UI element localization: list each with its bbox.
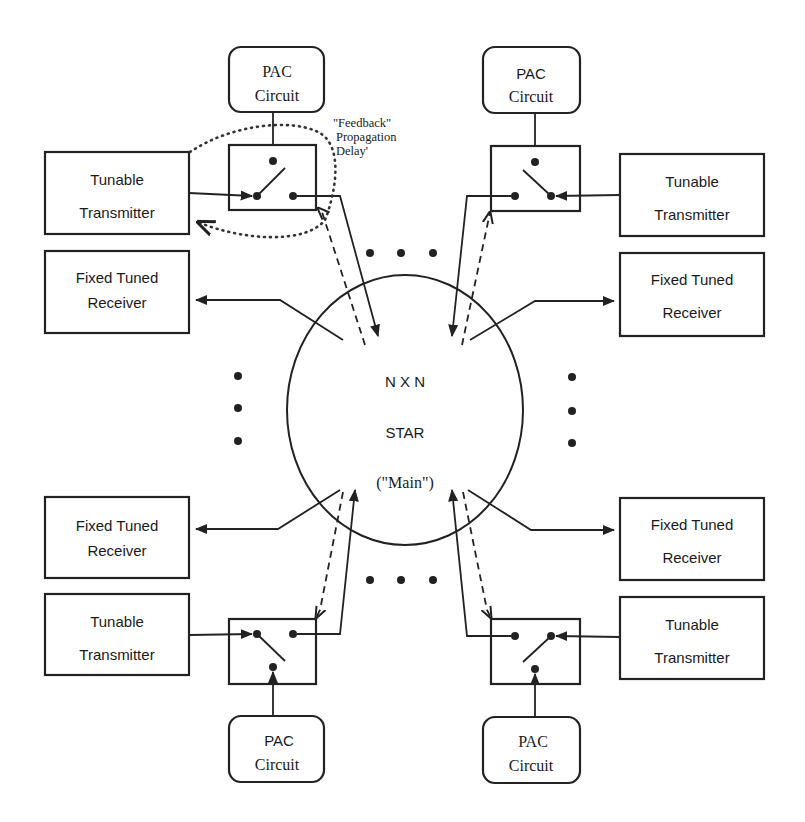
transmitter-label: Tunable <box>665 616 719 633</box>
tunable-transmitter-top-right: Tunable Transmitter <box>620 154 764 236</box>
receiver-label: Fixed Tuned <box>651 271 734 288</box>
pac-circuit-top-right: PAC Circuit <box>483 47 580 113</box>
tx-to-switch-line-top-right <box>556 195 620 196</box>
receiver-label: Fixed Tuned <box>651 516 734 533</box>
transmitter-sublabel: Transmitter <box>79 204 154 221</box>
transmitter-sublabel: Transmitter <box>79 646 154 663</box>
receiver-sublabel: Receiver <box>662 549 721 566</box>
pac-sublabel: Circuit <box>255 756 300 773</box>
switch-output-terminal <box>511 192 519 200</box>
switch-control-terminal <box>269 663 277 671</box>
feedback-annotation: "Feedback" Propagation Delay' <box>333 116 397 158</box>
star-label-line-1: N X N <box>385 373 425 390</box>
transmitter-sublabel: Transmitter <box>654 206 729 223</box>
switch-top-right <box>491 146 580 211</box>
fixed-tuned-receiver-top-left: Fixed Tuned Receiver <box>45 251 189 333</box>
tunable-transmitter-bottom-left: Tunable Transmitter <box>45 594 189 675</box>
tx-to-switch-line-bottom-right <box>556 636 620 637</box>
receiver-sublabel: Receiver <box>662 304 721 321</box>
tx-to-switch-line-bottom-left <box>189 634 252 635</box>
transmitter-sublabel: Transmitter <box>654 649 729 666</box>
star-label-line-3: ("Main") <box>376 474 434 492</box>
pac-circuit-bottom-left: PAC Circuit <box>229 716 324 782</box>
receiver-label: Fixed Tuned <box>76 517 159 534</box>
receiver-sublabel: Receiver <box>87 294 146 311</box>
pac-sublabel: Circuit <box>509 88 554 105</box>
fixed-tuned-receiver-top-right: Fixed Tuned Receiver <box>620 253 764 336</box>
ellipsis-left <box>234 372 242 445</box>
switch-top-left <box>229 145 316 210</box>
switch-control-terminal <box>531 665 539 673</box>
switch-output-terminal <box>289 630 297 638</box>
switch-control-terminal <box>531 158 539 166</box>
ellipsis-top <box>366 249 437 257</box>
pac-circuit-bottom-right: PAC Circuit <box>483 717 580 783</box>
tunable-transmitter-bottom-right: Tunable Transmitter <box>620 597 764 679</box>
transmitter-label: Tunable <box>90 613 144 630</box>
star-coupler-node: N X N STAR ("Main") <box>287 275 523 545</box>
annotation-line-3: Delay' <box>336 144 368 158</box>
annotation-line-1: "Feedback" <box>333 116 391 130</box>
pac-label: PAC <box>264 732 294 749</box>
fixed-tuned-receiver-bottom-left: Fixed Tuned Receiver <box>45 497 189 578</box>
switch-output-terminal <box>511 632 519 640</box>
star-label-line-2: STAR <box>386 424 425 441</box>
switch-output-terminal <box>289 192 297 200</box>
pac-sublabel: Circuit <box>509 757 554 774</box>
annotation-line-2: Propagation <box>336 130 397 144</box>
ellipsis-right <box>568 373 576 447</box>
pac-label: PAC <box>262 63 292 80</box>
pac-circuit-top-left: PAC Circuit <box>229 47 324 112</box>
fixed-tuned-receiver-bottom-right: Fixed Tuned Receiver <box>620 498 764 580</box>
pac-label: PAC <box>516 65 546 82</box>
pac-label: PAC <box>518 733 548 750</box>
receiver-label: Fixed Tuned <box>76 269 159 286</box>
transmitter-label: Tunable <box>90 171 144 188</box>
pac-sublabel: Circuit <box>255 87 300 104</box>
tunable-transmitter-top-left: Tunable Transmitter <box>45 152 189 234</box>
ellipsis-bottom <box>366 576 437 584</box>
switch-control-terminal <box>269 157 277 165</box>
transmitter-label: Tunable <box>665 173 719 190</box>
receiver-sublabel: Receiver <box>87 542 146 559</box>
wdm-star-network-diagram: N X N STAR ("Main") PAC Circuit Tunable … <box>0 0 805 822</box>
